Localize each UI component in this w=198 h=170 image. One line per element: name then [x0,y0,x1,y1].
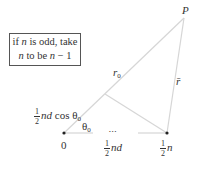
ellipsis: ••• [109,129,117,134]
r0-line [64,18,184,133]
origin-label: 0 [61,140,67,151]
theta-label: θ0 [82,121,91,134]
rbar-label: r̄ [176,76,180,87]
end-dot [165,131,168,134]
projection-label: 12nd cos θ0 [34,107,81,126]
note-line-2: n to be n − 1 [10,49,80,63]
r0-label: r0 [113,67,121,80]
point-p-label: P [182,5,189,16]
endpoint-label: 12n [160,139,173,158]
perpendicular-line [105,94,167,133]
origin-dot [62,131,65,134]
midpoint-label: 12nd [104,139,122,158]
note-line-1: if n is odd, take [10,35,80,49]
odd-n-note: if n is odd, take n to be n − 1 [9,33,81,66]
